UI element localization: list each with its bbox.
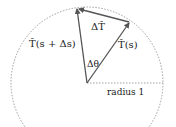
- delta-theta-label: Δθ: [87, 59, 99, 69]
- t-next-label: T̂(s + Δs): [29, 38, 76, 49]
- t-curr-label: T̂(s): [118, 39, 138, 50]
- unit-circle-diagram: T̂(s + Δs) T̂(s) ΔT̂ Δθ radius 1: [0, 0, 176, 127]
- delta-t-label: ΔT̂: [91, 21, 105, 32]
- t-curr-vector: [87, 23, 129, 83]
- t-next-vector: [77, 9, 87, 83]
- radius-label: radius 1: [107, 87, 144, 97]
